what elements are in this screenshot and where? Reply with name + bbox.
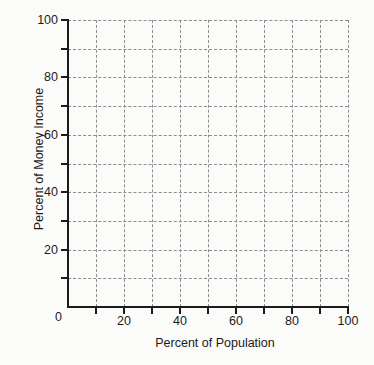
y-axis-tick (61, 191, 68, 193)
gridline-horizontal (68, 192, 348, 193)
gridline-horizontal (68, 49, 348, 50)
y-axis-tick (61, 163, 68, 165)
x-axis-tick (123, 307, 125, 314)
chart-figure: 2040608010020406080100 0 Percent of Popu… (0, 0, 374, 365)
gridline-vertical (264, 20, 265, 307)
y-axis-tick (61, 19, 68, 21)
origin-tick-label: 0 (55, 311, 62, 324)
gridline-vertical (152, 20, 153, 307)
gridline-vertical (236, 20, 237, 307)
x-axis-tick-label: 20 (99, 315, 149, 328)
gridline-horizontal (68, 221, 348, 222)
gridline-vertical (320, 20, 321, 307)
x-axis-tick (235, 307, 237, 314)
x-axis-tick (179, 307, 181, 314)
gridline-horizontal (68, 250, 348, 251)
y-axis-tick-label: 100 (18, 14, 58, 27)
x-axis-tick (291, 307, 293, 314)
x-axis-tick-label: 80 (267, 315, 317, 328)
gridline-vertical (124, 20, 125, 307)
gridline-vertical (348, 20, 349, 307)
x-axis-tick (207, 307, 209, 314)
gridline-horizontal (68, 135, 348, 136)
x-axis-tick (347, 307, 349, 314)
gridline-vertical (96, 20, 97, 307)
gridline-vertical (208, 20, 209, 307)
x-axis-title: Percent of Population (0, 336, 374, 350)
gridline-horizontal (68, 278, 348, 279)
x-axis-tick (95, 307, 97, 314)
x-axis-tick (151, 307, 153, 314)
y-axis-tick (61, 105, 68, 107)
plot-area (68, 20, 348, 307)
y-axis-tick (61, 277, 68, 279)
gridline-horizontal (68, 20, 348, 21)
gridline-vertical (180, 20, 181, 307)
y-axis-tick (61, 48, 68, 50)
x-axis-tick-label: 100 (323, 315, 373, 328)
y-axis-title: Percent of Money Income (32, 49, 46, 269)
x-axis-tick (263, 307, 265, 314)
y-axis-tick (61, 134, 68, 136)
gridline-horizontal (68, 106, 348, 107)
y-axis-tick (61, 220, 68, 222)
gridline-horizontal (68, 77, 348, 78)
y-axis-tick (61, 76, 68, 78)
gridline-vertical (292, 20, 293, 307)
x-axis-tick-label: 40 (155, 315, 205, 328)
x-axis-tick-label: 60 (211, 315, 261, 328)
gridline-horizontal (68, 164, 348, 165)
x-axis-tick (319, 307, 321, 314)
y-axis-tick (61, 249, 68, 251)
